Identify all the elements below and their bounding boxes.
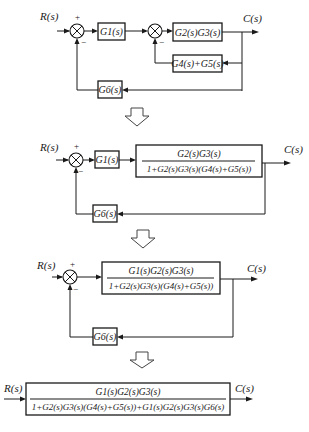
arrow-icon [246, 397, 253, 402]
down-arrow-icon [130, 352, 154, 368]
output-label-c: C(s) [235, 382, 254, 395]
arrow-icon [117, 212, 123, 217]
arrow-icon [153, 38, 158, 44]
arrow-icon [252, 30, 259, 35]
arrow-icon [167, 29, 173, 34]
minus-sign: − [159, 37, 164, 47]
minus-sign: − [73, 284, 78, 294]
diagram-4-closed-loop: R(s) G1(s)G2(s)G3(s) 1+G2(s)G3(s)(G4(s)+… [3, 382, 254, 415]
arrow-icon [251, 277, 258, 282]
arrow-icon [142, 29, 148, 34]
plus-sign: + [74, 141, 79, 151]
block-g1-label: G1(s) [100, 26, 123, 38]
fraction-numerator: G2(s)G3(s) [177, 149, 220, 160]
down-arrow-icon [125, 108, 149, 126]
block-diagram-reduction: R(s) + − G1(s) − G2(s)G3(s) C [0, 0, 309, 432]
output-label-c: C(s) [243, 12, 262, 25]
input-label-r: R(s) [39, 10, 59, 23]
fraction-numerator: G1(s)G2(s)G3(s) [96, 387, 161, 398]
arrow-icon [122, 88, 128, 93]
arrow-icon [130, 158, 136, 163]
arrow-icon [92, 29, 98, 34]
diagram-3-series-combined: R(s) + − G1(s)G2(s)G3(s) 1+G2(s)G3(s)(G4… [36, 259, 266, 345]
arrow-icon [284, 161, 291, 166]
fraction-denominator: 1+G2(s)G3(s)(G4(s)+G5(s))+G1(s)G2(s)G3(s… [32, 402, 225, 412]
summing-junction-1 [69, 153, 83, 167]
fraction-numerator: G1(s)G2(s)G3(s) [129, 266, 194, 277]
summing-junction-2 [148, 24, 162, 38]
arrow-icon [68, 284, 73, 290]
arrow-icon [75, 38, 80, 44]
arrow-icon [57, 275, 63, 280]
fraction-denominator: 1+G2(s)G3(s)(G4(s)+G5(s)) [109, 281, 214, 291]
input-label-r: R(s) [39, 141, 59, 154]
arrow-icon [117, 335, 123, 340]
down-arrow-icon [131, 230, 155, 248]
fraction-denominator: 1+G2(s)G3(s)(G4(s)+G5(s)) [147, 164, 252, 174]
plus-sign: + [75, 12, 80, 22]
block-g2g3-label: G2(s)G3(s) [175, 27, 221, 39]
block-g6-label: G6(s) [99, 84, 122, 96]
minus-sign: − [81, 37, 86, 47]
output-label-c: C(s) [247, 262, 266, 275]
input-label-r: R(s) [36, 259, 56, 272]
diagram-2-inner-loop-reduced: R(s) + − G1(s) G2(s)G3(s) 1+G2(s)G3(s)(G… [39, 141, 303, 222]
arrow-icon [63, 158, 69, 163]
plus-sign: + [70, 259, 75, 269]
block-g1-label: G1(s) [96, 154, 119, 166]
block-g6-label: G6(s) [94, 208, 117, 220]
arrow-icon [89, 158, 95, 163]
arrow-icon [64, 29, 70, 34]
block-g4-plus-g5-label: G4(s)+G5(s) [171, 58, 224, 70]
summing-junction-1 [70, 24, 84, 38]
output-label-c: C(s) [284, 143, 303, 156]
summing-junction-1 [63, 270, 77, 284]
diagram-1-original: R(s) + − G1(s) − G2(s)G3(s) C [39, 10, 262, 98]
block-g6-label: G6(s) [94, 331, 117, 343]
minus-sign: − [78, 166, 83, 176]
arrow-icon [20, 397, 26, 402]
arrow-icon [96, 275, 102, 280]
input-label-r: R(s) [3, 382, 23, 395]
